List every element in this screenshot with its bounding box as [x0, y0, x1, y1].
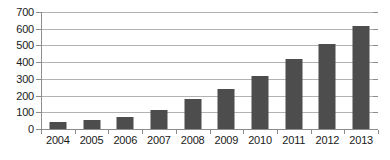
- y-axis-tick-label: 500: [0, 40, 34, 51]
- y-axis-tick-right: [373, 62, 378, 63]
- y-axis-tick-label: 100: [0, 107, 34, 118]
- bar-2010: [252, 76, 269, 129]
- bar-slot: [243, 12, 277, 129]
- x-axis-tick-label: 2005: [75, 134, 109, 146]
- bar-chart: 0100200300400500600700 20042005200620072…: [0, 0, 390, 160]
- bar-slot: [277, 12, 311, 129]
- x-axis-tick: [311, 130, 312, 134]
- x-axis-tick-label: 2013: [344, 134, 378, 146]
- y-axis-tick-right: [373, 112, 378, 113]
- bar-2012: [319, 44, 336, 129]
- x-axis-tick: [277, 130, 278, 134]
- y-axis-tick-right: [373, 45, 378, 46]
- bar-2007: [150, 110, 167, 129]
- y-axis-tick: [36, 45, 41, 46]
- bars-group: [41, 12, 378, 129]
- x-axis-tick: [176, 130, 177, 134]
- bar-slot: [176, 12, 210, 129]
- x-axis-tick-label: 2009: [210, 134, 244, 146]
- x-axis-tick-label: 2012: [311, 134, 345, 146]
- y-axis-tick: [36, 79, 41, 80]
- x-axis-tick: [108, 130, 109, 134]
- bar-slot: [142, 12, 176, 129]
- y-axis-tick-label: 600: [0, 24, 34, 35]
- y-axis-tick: [36, 96, 41, 97]
- y-axis-tick: [36, 112, 41, 113]
- y-axis-tick-label: 0: [0, 124, 34, 135]
- x-axis-tick-label: 2007: [142, 134, 176, 146]
- bar-2004: [49, 122, 66, 129]
- bar-2009: [218, 89, 235, 129]
- y-axis-tick-label: 700: [0, 7, 34, 18]
- x-axis-tick: [75, 130, 76, 134]
- y-axis-tick-right: [373, 12, 378, 13]
- x-axis-tick: [41, 130, 42, 134]
- y-axis-tick-right: [373, 79, 378, 80]
- x-axis-tick-label: 2006: [108, 134, 142, 146]
- x-axis-tick-label: 2011: [277, 134, 311, 146]
- bar-2013: [353, 26, 370, 129]
- x-axis-tick: [344, 130, 345, 134]
- x-axis-tick-label: 2010: [243, 134, 277, 146]
- x-axis-tick-label: 2004: [41, 134, 75, 146]
- bar-2005: [83, 120, 100, 129]
- x-axis-tick-label: 2008: [176, 134, 210, 146]
- y-axis-labels: 0100200300400500600700: [0, 0, 34, 160]
- bar-slot: [75, 12, 109, 129]
- bar-2008: [184, 99, 201, 129]
- y-axis-tick-right: [373, 96, 378, 97]
- y-axis-tick-right: [373, 29, 378, 30]
- y-axis-tick: [36, 12, 41, 13]
- bar-slot: [108, 12, 142, 129]
- bar-slot: [41, 12, 75, 129]
- x-axis-tick: [142, 130, 143, 134]
- bar-slot: [311, 12, 345, 129]
- bar-2011: [285, 59, 302, 129]
- y-axis-tick-label: 400: [0, 57, 34, 68]
- x-axis-labels: 2004200520062007200820092010201120122013: [41, 134, 378, 154]
- y-axis-tick-label: 300: [0, 74, 34, 85]
- x-axis-tick: [210, 130, 211, 134]
- y-axis-tick: [36, 29, 41, 30]
- y-axis-tick: [36, 62, 41, 63]
- bar-slot: [210, 12, 244, 129]
- x-axis-tick: [378, 130, 379, 134]
- x-axis-tick: [243, 130, 244, 134]
- bar-2006: [117, 117, 134, 129]
- y-axis-tick-label: 200: [0, 91, 34, 102]
